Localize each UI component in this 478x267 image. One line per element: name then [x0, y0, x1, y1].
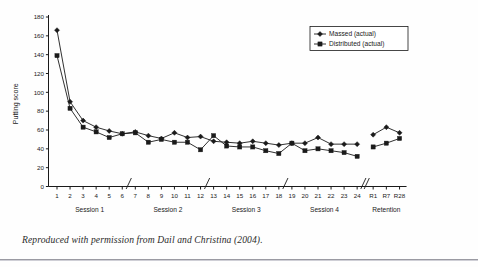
- chart-svg: Massed (actual)Distributed (actual) 0204…: [0, 0, 478, 232]
- series-line: [57, 56, 357, 157]
- x-tick-label: 12: [197, 192, 204, 199]
- x-group-label: Session 4: [310, 206, 339, 213]
- x-tick-label: 8: [147, 192, 151, 199]
- square-marker-icon: [94, 130, 98, 134]
- diamond-marker-icon: [107, 128, 112, 133]
- axis-break-mark: [204, 178, 209, 189]
- x-tick-label: 23: [341, 192, 348, 199]
- square-marker-icon: [212, 134, 216, 138]
- diamond-marker-icon: [94, 125, 99, 130]
- axis-break-mark: [283, 178, 288, 189]
- x-tick-label: 18: [275, 192, 282, 199]
- diamond-marker-icon: [185, 135, 190, 140]
- square-marker-icon: [68, 106, 72, 110]
- y-axis-title: Putting score: [12, 83, 20, 124]
- square-marker-icon: [146, 140, 150, 144]
- x-group-label: Session 2: [153, 206, 182, 213]
- chart-legend: Massed (actual)Distributed (actual): [310, 27, 408, 51]
- x-tick-label: 9: [160, 192, 164, 199]
- x-tick-label: 19: [288, 192, 295, 199]
- y-tick-label: 20: [37, 164, 44, 171]
- x-group-label: Retention: [372, 206, 401, 213]
- x-tick-label: 16: [249, 192, 256, 199]
- x-tick-label: 2: [68, 192, 72, 199]
- square-marker-icon: [133, 131, 137, 135]
- x-tick-label: 24: [354, 192, 361, 199]
- x-tick-label: 15: [236, 192, 243, 199]
- square-marker-icon: [316, 147, 320, 151]
- diamond-marker-icon: [276, 143, 281, 148]
- diamond-marker-icon: [146, 133, 151, 138]
- diamond-marker-icon: [384, 125, 389, 130]
- square-marker-icon: [342, 151, 346, 155]
- x-tick-label: 21: [315, 192, 322, 199]
- square-marker-icon: [384, 141, 388, 145]
- diamond-marker-icon: [302, 141, 307, 146]
- square-marker-icon: [172, 140, 176, 144]
- x-tick-label: 20: [302, 192, 309, 199]
- square-marker-icon: [329, 149, 333, 153]
- x-tick-label: 3: [81, 192, 85, 199]
- x-tick-label: 11: [184, 192, 191, 199]
- square-marker-icon: [397, 136, 401, 140]
- y-tick-label: 0: [41, 183, 45, 190]
- square-marker-icon: [107, 135, 111, 139]
- figure-caption: Reproduced with permission from Dail and…: [22, 234, 263, 245]
- x-tick-label: R1: [369, 192, 377, 199]
- square-marker-icon: [55, 54, 59, 58]
- x-tick-label: 4: [94, 192, 98, 199]
- x-tick-label: 5: [107, 192, 111, 199]
- square-marker-icon: [198, 148, 202, 152]
- putting-score-line-chart: Massed (actual)Distributed (actual) 0204…: [0, 0, 478, 232]
- square-marker-icon: [185, 140, 189, 144]
- square-marker-icon: [355, 154, 359, 158]
- legend-entry-label: Massed (actual): [329, 30, 376, 38]
- diamond-marker-icon: [263, 141, 268, 146]
- diamond-marker-icon: [397, 130, 402, 135]
- legend-entry-label: Distributed (actual): [329, 40, 384, 48]
- y-tick-label: 40: [37, 145, 44, 152]
- square-marker-icon: [225, 144, 229, 148]
- diamond-marker-icon: [172, 130, 177, 135]
- x-group-label: Session 1: [75, 206, 104, 213]
- diamond-marker-icon: [55, 28, 60, 33]
- diamond-marker-icon: [250, 139, 255, 144]
- x-tick-label: 7: [134, 192, 138, 199]
- x-tick-label: 22: [328, 192, 335, 199]
- bottom-divider-shadow: [0, 260, 478, 261]
- square-marker-icon: [159, 137, 163, 141]
- diamond-marker-icon: [198, 134, 203, 139]
- square-marker-icon: [251, 145, 255, 149]
- x-tick-label: 6: [121, 192, 125, 199]
- square-marker-icon: [318, 42, 322, 46]
- y-tick-label: 100: [34, 89, 45, 96]
- square-marker-icon: [81, 125, 85, 129]
- diamond-marker-icon: [355, 142, 360, 147]
- x-tick-label: 13: [210, 192, 217, 199]
- y-tick-label: 60: [37, 126, 44, 133]
- y-tick-label: 80: [37, 107, 44, 114]
- x-tick-label: 17: [262, 192, 269, 199]
- square-marker-icon: [277, 151, 281, 155]
- y-tick-label: 160: [34, 32, 45, 39]
- square-marker-icon: [238, 145, 242, 149]
- square-marker-icon: [303, 149, 307, 153]
- square-marker-icon: [120, 132, 124, 136]
- square-marker-icon: [290, 141, 294, 145]
- x-tick-label: R28: [394, 192, 406, 199]
- x-tick-label: 14: [223, 192, 230, 199]
- diamond-marker-icon: [342, 142, 347, 147]
- diamond-marker-icon: [211, 139, 216, 144]
- y-tick-label: 120: [34, 70, 45, 77]
- figure-root: Massed (actual)Distributed (actual) 0204…: [0, 0, 478, 267]
- x-tick-label: 10: [171, 192, 178, 199]
- axis-break-mark: [126, 178, 131, 189]
- square-marker-icon: [264, 149, 268, 153]
- x-group-label: Session 3: [232, 206, 261, 213]
- diamond-marker-icon: [316, 135, 321, 140]
- y-tick-label: 140: [34, 51, 45, 58]
- y-tick-label: 180: [34, 13, 45, 20]
- x-tick-label: 1: [55, 192, 59, 199]
- square-marker-icon: [371, 145, 375, 149]
- x-tick-label: R7: [382, 192, 390, 199]
